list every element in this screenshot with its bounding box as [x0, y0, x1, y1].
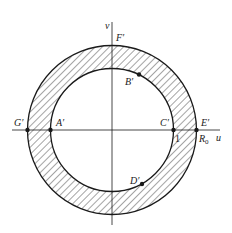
label-C: C′	[160, 118, 169, 128]
point-B	[137, 72, 141, 76]
label-F: F′	[116, 33, 124, 43]
point-A	[48, 128, 52, 132]
label-B: B′	[125, 77, 133, 87]
u-axis-label: u	[216, 133, 221, 143]
label-one: 1	[175, 134, 180, 144]
point-E	[194, 128, 198, 132]
point-C	[171, 128, 175, 132]
point-D	[140, 182, 144, 186]
v-axis-label: v	[105, 21, 109, 31]
label-R-subscript: 0	[205, 138, 209, 146]
label-D: D′	[130, 176, 139, 186]
label-A: A′	[56, 118, 64, 128]
annulus-diagram: v F′ B′ G′ A′ C′ E′ 1 R0 u D′	[0, 0, 232, 233]
label-R0: R0	[199, 134, 209, 146]
label-G: G′	[14, 118, 23, 128]
label-E: E′	[201, 118, 209, 128]
point-G	[25, 128, 29, 132]
